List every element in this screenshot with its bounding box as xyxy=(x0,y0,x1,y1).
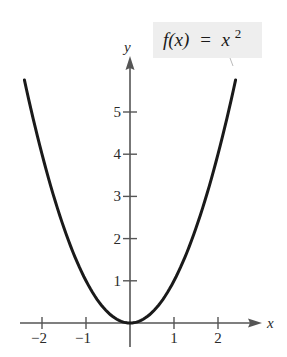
x-tick-label: 1 xyxy=(170,330,178,346)
x-tick-label: 2 xyxy=(214,330,222,346)
y-tick-label: 1 xyxy=(114,273,122,289)
function-callout: f(x) = x 2 xyxy=(153,22,262,66)
x-axis: x −2−112 xyxy=(20,315,274,346)
y-axis-label: y xyxy=(122,39,131,55)
callout-rhs: x xyxy=(221,29,231,50)
svg-text:f(x) = x 2: f(x) = x 2 xyxy=(163,26,241,51)
y-tick-label: 2 xyxy=(114,231,122,247)
y-tick-label: 5 xyxy=(114,104,122,120)
y-tick-label: 3 xyxy=(114,188,122,204)
x-tick-label: −2 xyxy=(31,330,47,346)
y-tick-label: 4 xyxy=(114,146,122,162)
callout-equals: = xyxy=(200,29,211,50)
callout-exponent: 2 xyxy=(235,26,242,41)
parabola-chart: f(x) = x 2 x −2−112 y 12345 xyxy=(0,0,287,357)
x-axis-arrow-icon xyxy=(248,319,262,328)
x-axis-label: x xyxy=(266,315,274,331)
y-axis: y 12345 xyxy=(114,39,138,347)
callout-func: f(x) xyxy=(163,29,189,51)
y-axis-arrow-icon xyxy=(126,56,135,70)
x-tick-label: −1 xyxy=(75,330,91,346)
